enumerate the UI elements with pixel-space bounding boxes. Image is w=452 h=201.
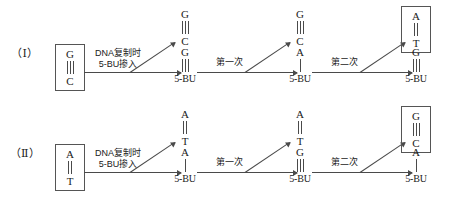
mutagenesis-diagram: （Ⅰ） G C DNA复制时 5-BU掺入 G C G 5-BU 第一	[0, 0, 452, 201]
row-label-2: （Ⅱ）	[8, 144, 42, 160]
row2-stage2-upper-top: A	[285, 108, 315, 120]
diagram-row-1: （Ⅰ） G C DNA复制时 5-BU掺入 G C G 5-BU 第一	[0, 0, 452, 100]
row2-stage2-lower-bond	[297, 159, 304, 172]
row1-stage3-upper-top: A	[402, 10, 430, 22]
row2-arrow-second-round	[312, 172, 412, 173]
row1-stage2-lower-bottom: 5-BU	[285, 73, 315, 85]
row2-stage1-upper-top: A	[170, 108, 200, 120]
row2-stage1-upper-pair: A T	[170, 108, 200, 147]
row1-stage1-upper-pair: G C	[170, 8, 200, 47]
row2-start-top: A	[56, 148, 84, 160]
row2-stage3-upper-top: G	[402, 110, 430, 122]
row2-stage2-upper-pair: A T	[285, 108, 315, 147]
row2-stage2-lower-top: G	[285, 146, 315, 158]
row2-stage2-upper-bond	[298, 121, 302, 134]
row1-stage1-upper-bond	[182, 21, 189, 34]
row1-stage3-lower-bond	[413, 59, 420, 72]
row2-stage3-lower-top: A	[401, 146, 431, 158]
row1-start-top: G	[56, 48, 84, 60]
row2-stage1-lower-bond	[185, 159, 186, 172]
row1-stage1-lower-bond	[182, 59, 189, 72]
row2-stage1-upper-bond	[183, 121, 187, 134]
row2-start-bond	[68, 161, 72, 174]
row2-transition-3-label: 第二次	[320, 155, 368, 168]
row2-stage3-lower-bottom: 5-BU	[401, 173, 431, 185]
row1-stage3-lower-bottom: 5-BU	[401, 73, 431, 85]
row1-stage2-upper-bond	[297, 21, 304, 34]
row2-start-bottom: T	[56, 175, 84, 187]
row1-stage1-lower-top: G	[170, 46, 200, 58]
row1-stage1-lower-bottom: 5-BU	[170, 73, 200, 85]
row-label-1: （Ⅰ）	[8, 44, 42, 60]
row1-stage2-lower-pair: A 5-BU	[285, 46, 315, 85]
row2-stage1-lower-bottom: 5-BU	[170, 173, 200, 185]
row1-stage2-upper-pair: G C	[285, 8, 315, 47]
row1-start-bottom: C	[56, 75, 84, 87]
row1-transition-3-label: 第二次	[320, 55, 368, 68]
row1-start-bond	[67, 61, 74, 74]
row2-stage2-lower-bottom: 5-BU	[285, 173, 315, 185]
row1-transition-2-label: 第一次	[205, 55, 253, 68]
row2-transition-2-label: 第一次	[205, 155, 253, 168]
row2-stage2-lower-pair: G 5-BU	[285, 146, 315, 185]
row1-arrow-second-round	[312, 72, 412, 73]
row1-start-pair: G C	[55, 44, 85, 91]
row2-stage3-lower-bond	[416, 159, 417, 172]
row1-stage3-lower-top: G	[401, 46, 431, 58]
row2-stage1-lower-pair: A 5-BU	[170, 146, 200, 185]
row1-arrow-first-round	[197, 72, 297, 73]
row1-stage2-lower-top: A	[285, 46, 315, 58]
row2-arrow-replication	[84, 172, 181, 173]
row1-stage2-upper-top: G	[285, 8, 315, 20]
diagram-row-2: （Ⅱ） A T DNA复制时 5-BU掺入 A T A 5-BU 第一	[0, 100, 452, 200]
row2-transition-1-label: DNA复制时 5-BU掺入	[84, 148, 152, 170]
row2-start-pair: A T	[55, 144, 85, 191]
row1-stage1-upper-top: G	[170, 8, 200, 20]
row2-stage3-lower-pair: A 5-BU	[401, 146, 431, 185]
row2-stage3-upper-bond	[413, 123, 420, 136]
row2-stage1-lower-top: A	[170, 146, 200, 158]
row1-stage2-lower-bond	[300, 59, 301, 72]
row1-stage3-lower-pair: G 5-BU	[401, 46, 431, 85]
row1-arrow-replication	[84, 72, 181, 73]
row1-stage3-upper-bond	[414, 23, 418, 36]
row2-arrow-first-round	[197, 172, 297, 173]
row1-transition-1-label: DNA复制时 5-BU掺入	[84, 48, 152, 70]
row1-stage1-lower-pair: G 5-BU	[170, 46, 200, 85]
